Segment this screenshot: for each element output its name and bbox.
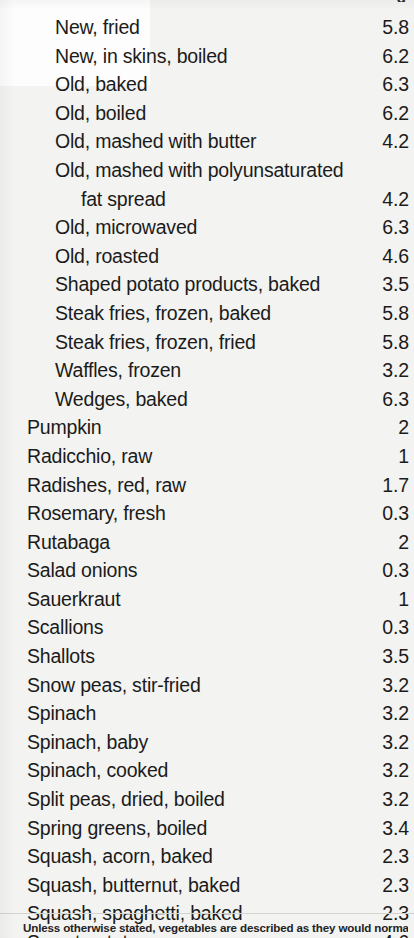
table-row: Steak fries, frozen, baked5.8	[0, 299, 414, 328]
row-label: Old, mashed with polyunsaturated	[55, 156, 375, 185]
table-row: Radishes, red, raw1.7	[0, 471, 414, 500]
row-label: Old, baked	[55, 70, 375, 99]
column-header-grams: g	[397, 0, 406, 2]
row-value: 1.7	[375, 471, 409, 500]
table-row: Rosemary, fresh0.3	[0, 499, 414, 528]
row-label: Spinach, baby	[27, 728, 375, 757]
row-label: Scallions	[27, 613, 375, 642]
table-row: Squash, acorn, baked2.3	[0, 842, 414, 871]
row-value: 1	[375, 585, 409, 614]
row-value: 3.2	[375, 671, 409, 700]
row-label: Squash, butternut, baked	[27, 871, 375, 900]
scanned-page: g New, fried5.8New, in skins, boiled6.2O…	[0, 0, 414, 938]
row-value: 4.2	[375, 127, 409, 156]
row-label: Pumpkin	[27, 413, 375, 442]
row-value: 3.2	[375, 699, 409, 728]
row-label: Shallots	[27, 642, 375, 671]
row-value: 6.2	[375, 42, 409, 71]
row-value: 0.3	[375, 499, 409, 528]
table-row: Split peas, dried, boiled3.2	[0, 785, 414, 814]
row-value: 3.5	[375, 642, 409, 671]
row-label: Split peas, dried, boiled	[27, 785, 375, 814]
row-value: 6.3	[375, 385, 409, 414]
table-row: Steak fries, frozen, fried5.8	[0, 328, 414, 357]
table-row: Old, mashed with polyunsaturated	[0, 156, 414, 185]
table-row: Old, mashed with butter4.2	[0, 127, 414, 156]
row-label: Radicchio, raw	[27, 442, 375, 471]
table-row: Waffles, frozen3.2	[0, 356, 414, 385]
row-value: 5.8	[375, 13, 409, 42]
row-label: Rutabaga	[27, 528, 375, 557]
row-label: Radishes, red, raw	[27, 471, 375, 500]
row-label: New, fried	[55, 13, 375, 42]
table-row: Rutabaga2	[0, 528, 414, 557]
row-value: 2.3	[375, 871, 409, 900]
table-row: Shallots3.5	[0, 642, 414, 671]
row-value: 0.3	[375, 613, 409, 642]
table-row: Salad onions0.3	[0, 556, 414, 585]
table-row: Radicchio, raw1	[0, 442, 414, 471]
row-label: Wedges, baked	[55, 385, 375, 414]
table-row: Spring greens, boiled3.4	[0, 814, 414, 843]
table-row: Scallions0.3	[0, 613, 414, 642]
row-label: Old, mashed with butter	[55, 127, 375, 156]
row-label: Snow peas, stir-fried	[27, 671, 375, 700]
row-value: 1	[375, 442, 409, 471]
row-value: 2	[375, 413, 409, 442]
row-value: 3.2	[375, 785, 409, 814]
table-row: Sauerkraut1	[0, 585, 414, 614]
row-value: 6.3	[375, 213, 409, 242]
footnote-text: Unless otherwise stated, vegetables are …	[23, 921, 408, 938]
row-value: 6.3	[375, 70, 409, 99]
table-row: New, fried5.8	[0, 13, 414, 42]
table-row: fat spread4.2	[0, 185, 414, 214]
table-row: Old, microwaved6.3	[0, 213, 414, 242]
table-row: Snow peas, stir-fried3.2	[0, 671, 414, 700]
footnote-divider	[0, 913, 414, 914]
row-label: Spring greens, boiled	[27, 814, 375, 843]
row-label: Sauerkraut	[27, 585, 375, 614]
row-label: Waffles, frozen	[55, 356, 375, 385]
nutrition-table: New, fried5.8New, in skins, boiled6.2Old…	[0, 13, 414, 938]
table-row: New, in skins, boiled6.2	[0, 42, 414, 71]
table-row: Pumpkin2	[0, 413, 414, 442]
row-value: 3.2	[375, 356, 409, 385]
row-value: 3.2	[375, 756, 409, 785]
table-row: Old, baked6.3	[0, 70, 414, 99]
row-label: Steak fries, frozen, fried	[55, 328, 375, 357]
table-row: Spinach, cooked3.2	[0, 756, 414, 785]
row-value: 6.2	[375, 99, 409, 128]
row-label: Spinach, cooked	[27, 756, 375, 785]
row-value: 2	[375, 528, 409, 557]
row-label: Salad onions	[27, 556, 375, 585]
row-value: 2.3	[375, 842, 409, 871]
row-value: 3.2	[375, 728, 409, 757]
row-label: Steak fries, frozen, baked	[55, 299, 375, 328]
row-value: 0.3	[375, 556, 409, 585]
row-value: 3.4	[375, 814, 409, 843]
table-row: Spinach3.2	[0, 699, 414, 728]
row-label: Squash, acorn, baked	[27, 842, 375, 871]
table-row: Old, boiled6.2	[0, 99, 414, 128]
row-label: Old, microwaved	[55, 213, 375, 242]
row-value: 4.2	[375, 185, 409, 214]
table-row: Spinach, baby3.2	[0, 728, 414, 757]
table-row: Wedges, baked6.3	[0, 385, 414, 414]
row-label: Shaped potato products, baked	[55, 270, 375, 299]
row-value: 3.5	[375, 270, 409, 299]
row-value: 4.6	[375, 242, 409, 271]
row-value: 5.8	[375, 299, 409, 328]
row-label: New, in skins, boiled	[55, 42, 375, 71]
table-row: Old, roasted4.6	[0, 242, 414, 271]
row-label: fat spread	[81, 185, 375, 214]
row-label: Rosemary, fresh	[27, 499, 375, 528]
table-row: Squash, butternut, baked2.3	[0, 871, 414, 900]
row-label: Old, roasted	[55, 242, 375, 271]
row-label: Old, boiled	[55, 99, 375, 128]
row-label: Spinach	[27, 699, 375, 728]
row-value: 5.8	[375, 328, 409, 357]
table-row: Shaped potato products, baked3.5	[0, 270, 414, 299]
